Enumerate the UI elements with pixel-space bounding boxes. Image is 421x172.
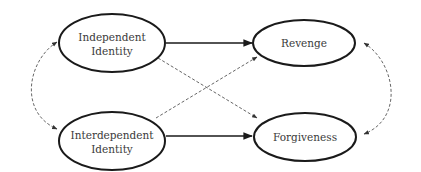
covariance-outcomes-curve (364, 43, 391, 134)
label-line: Identity (78, 44, 145, 58)
label-line: Identity (71, 142, 154, 156)
path-diagram (0, 0, 421, 172)
label-independent-identity: Independent Identity (78, 30, 145, 58)
label-line: Independent (78, 30, 145, 44)
label-line: Interdependent (71, 128, 154, 142)
label-forgiveness: Forgiveness (273, 130, 337, 144)
label-line: Forgiveness (273, 130, 337, 144)
label-revenge: Revenge (281, 36, 327, 50)
label-interdependent-identity: Interdependent Identity (71, 128, 154, 156)
label-line: Revenge (281, 36, 327, 50)
covariance-identities-curve (31, 42, 57, 129)
edge-independent-to-forgiveness (158, 58, 257, 118)
